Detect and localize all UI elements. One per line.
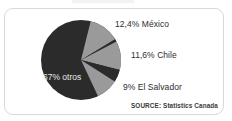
top-edge-artifact [72, 0, 134, 3]
pie-chart-figure: 67% otros 12,4% México 11,6% Chile 9% El… [0, 0, 232, 121]
pie-label-el-salvador: 9% El Salvador [123, 83, 182, 92]
pie-label-chile: 11,6% Chile [131, 51, 177, 60]
pie-label-mexico: 12,4% México [115, 20, 169, 29]
pie-label-otros: 67% otros [43, 73, 81, 82]
pie-chart-graphic [41, 20, 121, 100]
source-caption: SOURCE: Statistics Canada [131, 103, 218, 109]
